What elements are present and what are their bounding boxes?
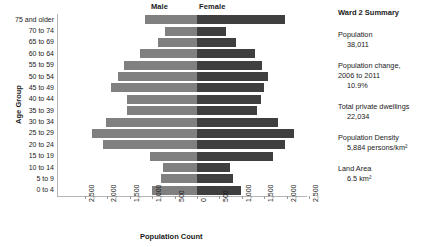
x-axis-tick (242, 196, 243, 199)
bar-female (197, 186, 241, 195)
bar-female (197, 118, 278, 127)
bar-male (103, 140, 197, 149)
y-axis-tick-label: 50 to 54 (29, 73, 54, 81)
bar-female (197, 174, 233, 183)
y-axis-tick-label: 70 to 74 (29, 27, 54, 35)
y-axis-tick-label: 75 and older (15, 16, 54, 24)
bar-row (57, 106, 307, 115)
bar-row (57, 163, 307, 172)
legend-label-female: Female (199, 2, 225, 11)
bar-female (197, 163, 230, 172)
summary-stat: Land Area6.5 km² (338, 164, 431, 184)
summary-title: Ward 2 Summary (338, 8, 431, 18)
bar-female (197, 49, 255, 58)
summary-stat-value: 38,011 (338, 40, 431, 50)
bar-row (57, 140, 307, 149)
summary-stat-label: Population (338, 30, 431, 40)
bar-row (57, 129, 307, 138)
x-axis-tick-label: 500 (222, 190, 229, 202)
y-axis-tick-label: 5 to 9 (36, 175, 54, 183)
bar-row (57, 174, 307, 183)
summary-stat-label: Population Density (338, 133, 431, 143)
x-axis-tick-label: 1,500 (267, 184, 274, 202)
summary-stat-value: 6.5 km² (338, 174, 431, 184)
bar-female (197, 72, 268, 81)
summary-stat-value: 10.9% (338, 81, 431, 91)
bar-female (197, 95, 261, 104)
summary-stat-value: 5,884 persons/km² (338, 143, 431, 153)
bar-male (106, 118, 197, 127)
x-axis-tick (197, 196, 198, 199)
y-axis-tick-label: 25 to 29 (29, 129, 54, 137)
summary-stat: Population Density5,884 persons/km² (338, 133, 431, 153)
bar-male (111, 83, 197, 92)
bar-male (127, 106, 197, 115)
x-axis-tick (107, 196, 108, 199)
x-axis-tick-label: 0 (200, 198, 207, 202)
y-axis-tick-label: 20 to 24 (29, 141, 54, 149)
x-axis-tick-label: 1,500 (133, 184, 140, 202)
x-axis-tick (287, 196, 288, 199)
x-axis-tick (85, 196, 86, 199)
bar-female (197, 38, 236, 47)
bar-male (92, 129, 197, 138)
summary-stat-label: Population change, (338, 61, 431, 71)
bar-female (197, 106, 257, 115)
y-axis-tick-label: 0 to 4 (36, 186, 54, 194)
x-axis-tick (219, 196, 220, 199)
bar-female (197, 83, 264, 92)
summary-stat-label-line2: 2006 to 2011 (338, 71, 431, 81)
y-axis-tick-label: 35 to 39 (29, 107, 54, 115)
bar-female (197, 129, 294, 138)
x-axis-tick (175, 196, 176, 199)
x-axis-tick (152, 196, 153, 199)
bar-female (197, 15, 285, 24)
x-axis-tick-label: 2,500 (88, 184, 95, 202)
bar-row (57, 95, 307, 104)
x-axis-tick (130, 196, 131, 199)
bar-row (57, 49, 307, 58)
bar-female (197, 27, 226, 36)
bar-male (158, 38, 197, 47)
summary-stat-label: Land Area (338, 164, 431, 174)
x-axis-tick-label: 1,000 (155, 184, 162, 202)
y-axis-tick-label: 10 to 14 (29, 164, 54, 172)
summary-stat-label: Total private dwellings (338, 102, 431, 112)
x-axis-tick-label: 1,000 (245, 184, 252, 202)
bar-female (197, 61, 262, 70)
bar-male (145, 15, 197, 24)
bar-row (57, 27, 307, 36)
bar-row (57, 83, 307, 92)
summary-stat-value: 22,034 (338, 112, 431, 122)
bar-male (150, 152, 197, 161)
bar-male (140, 49, 197, 58)
bar-male (161, 174, 197, 183)
population-pyramid-figure: Male Female Age Group 75 and older70 to … (0, 0, 431, 247)
x-axis-title: Population Count (140, 232, 203, 241)
x-axis-tick (309, 196, 310, 199)
summary-stat: Population change,2006 to 201110.9% (338, 61, 431, 91)
x-axis-tick-label: 2,000 (110, 184, 117, 202)
y-axis-tick-labels: 75 and older70 to 7465 to 6960 to 6455 t… (0, 14, 56, 196)
bar-female (197, 140, 285, 149)
y-axis-tick-label: 60 to 64 (29, 50, 54, 58)
plot-area: 2,5002,0001,5001,00050005001,0001,5002,0… (57, 14, 307, 196)
summary-panel: Ward 2 Summary Population38,011Populatio… (338, 8, 431, 195)
bar-female (197, 152, 273, 161)
y-axis-tick-label: 65 to 69 (29, 38, 54, 46)
y-axis-tick-label: 30 to 34 (29, 118, 54, 126)
bar-male (124, 61, 197, 70)
bar-row (57, 118, 307, 127)
y-axis-tick-label: 55 to 59 (29, 61, 54, 69)
x-axis-tick (264, 196, 265, 199)
y-axis-tick-label: 45 to 49 (29, 84, 54, 92)
x-axis-tick-label: 2,500 (312, 184, 319, 202)
bar-male (165, 27, 197, 36)
bar-row (57, 61, 307, 70)
bar-male (127, 95, 197, 104)
bar-male (163, 163, 197, 172)
bar-row (57, 152, 307, 161)
legend-label-male: Male (151, 2, 168, 11)
chart-area: Male Female Age Group 75 and older70 to … (0, 0, 318, 247)
bar-male (118, 72, 197, 81)
